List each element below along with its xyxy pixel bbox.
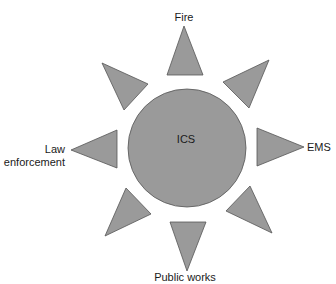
- ics-sun-diagram: ICS Fire EMS Public works Law enforcemen…: [0, 0, 336, 284]
- ray-left-law-enforcement: [71, 130, 117, 168]
- law-label: Law: [45, 143, 65, 155]
- enforcement-label: enforcement: [4, 156, 65, 168]
- ems-label: EMS: [307, 141, 331, 153]
- ray-bottom-right: [226, 186, 272, 233]
- ics-circle: [128, 89, 246, 207]
- ray-top-left: [102, 63, 148, 110]
- ray-bottom-public-works: [170, 222, 206, 271]
- ics-label: ICS: [177, 133, 195, 145]
- ray-top-fire: [167, 26, 203, 75]
- fire-label: Fire: [175, 11, 194, 23]
- ray-bottom-left: [105, 188, 151, 236]
- ray-top-right: [223, 60, 269, 108]
- public-works-label: Public works: [154, 271, 216, 283]
- ray-right-ems: [257, 128, 304, 166]
